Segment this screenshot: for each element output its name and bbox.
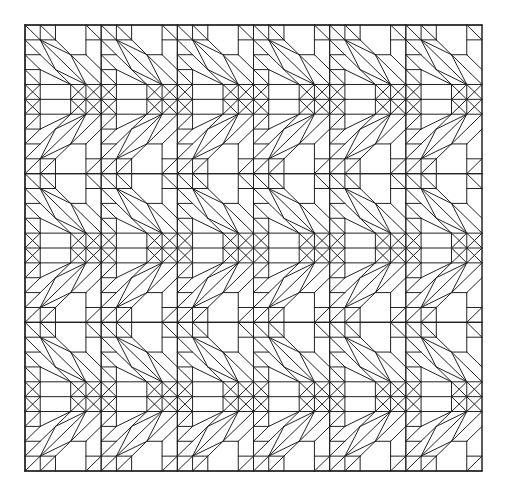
tessellation-lines — [25, 25, 482, 471]
tessellation-figure — [0, 0, 512, 500]
pattern-lines — [25, 25, 482, 471]
